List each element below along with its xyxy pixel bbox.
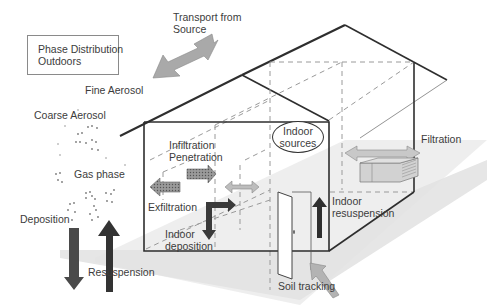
transport-arrow [153,34,218,78]
gas-phase-label: Gas phase [74,168,125,180]
exfiltration-arrow [150,178,180,196]
phase-box-line1: Phase Distribution [28,36,118,55]
fine-aerosol-label: Fine Aerosol [85,84,143,96]
door [278,192,311,279]
outdoor-particles [55,109,126,221]
ground-shading [60,140,487,305]
penetration-label: Penetration [169,151,223,163]
exfiltration-label: Exfiltration [148,201,197,213]
indoor-sources-label-line1: Indoor [273,122,323,137]
indoor-sources-oval: Indoor sources [272,121,324,153]
indoor-sources-label-line2: sources [273,137,323,149]
penetration-arrow [187,165,216,183]
transport-label-line2: Source [173,23,206,35]
phase-box-line2: Outdoors [28,55,118,67]
infiltration-label: Infiltration [169,139,215,151]
resuspension-label: Resuspension [88,266,155,278]
diagram-canvas: Phase Distribution Outdoors Transport fr… [0,0,487,307]
filtration-label: Filtration [421,133,461,145]
indoor-resuspension-label-line1: Indoor [332,195,362,207]
coarse-aerosol-label: Coarse Aerosol [34,109,106,121]
phase-distribution-box: Phase Distribution Outdoors [27,35,119,75]
indoor-deposition-label-line2: deposition [165,240,213,252]
deposition-label: Deposition [20,213,70,225]
soil-tracking-label: Soil tracking [278,280,335,292]
indoor-resuspension-label-line2: resuspension [332,207,394,219]
transport-label-line1: Transport from [173,11,241,23]
indoor-deposition-label-line1: Indoor [165,228,195,240]
